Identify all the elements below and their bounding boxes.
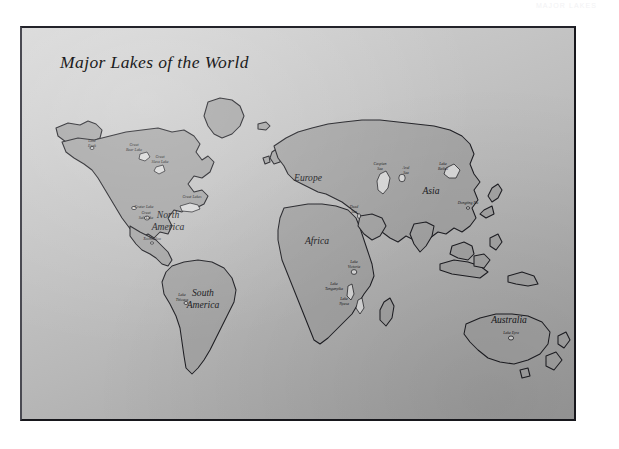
lake-shape-eyre — [508, 336, 513, 340]
lake-label-nyasa-line1: Lake — [339, 297, 348, 301]
landmass-borneo — [474, 254, 490, 268]
lake-label-caspian-line1: Caspian — [374, 162, 387, 166]
landmass-greenland — [204, 98, 244, 138]
lake-label-great-slave-line2: Slave Lake — [152, 160, 169, 164]
landmass-india — [410, 222, 434, 252]
landmass-tasmania — [520, 368, 530, 378]
continent-label-south-america-line1: South — [192, 287, 214, 298]
lake-label-titicaca-line1: Lake — [177, 293, 186, 297]
lake-label-nyasa-line2: Nyasa — [338, 302, 349, 306]
lake-shape-dongting — [466, 207, 469, 210]
landmass-south-america — [162, 260, 236, 374]
lake-label-xochimilco: Xochimilco — [142, 237, 161, 241]
continent-label-north-america-line1: North — [156, 209, 180, 220]
landmass-japan — [488, 184, 502, 202]
page-canvas: MAJOR LAKES Major Lakes of the World — [0, 0, 619, 449]
landmass-new-zealand-north — [558, 332, 570, 348]
lake-label-eyre: Lake Eyre — [502, 331, 519, 335]
landmass-ireland — [263, 156, 270, 164]
lake-label-dead-line2: Sea — [351, 210, 357, 214]
continent-label-europe: Europe — [293, 172, 323, 183]
lake-label-aral-line2: Sea — [403, 171, 409, 175]
continent-label-africa: Africa — [304, 235, 329, 246]
lake-shape-xochimilco — [150, 242, 153, 244]
lake-label-dead-line1: Dead — [349, 205, 358, 209]
landmass-southeast-asia — [450, 242, 474, 260]
continent-label-north-america-line2: America — [151, 221, 185, 232]
map-title: Major Lakes of the World — [60, 52, 249, 73]
lake-label-crater: Crater Lake — [135, 205, 154, 209]
lake-label-baikal-line2: Baikal — [438, 167, 448, 171]
lake-label-titicaca-line2: Titicaca — [176, 298, 189, 302]
lake-label-aral-line1: Aral — [402, 166, 410, 170]
lake-label-great-lakes: Great Lakes — [183, 195, 202, 199]
landmass-new-zealand-south — [546, 352, 562, 370]
lake-shape-aral — [399, 174, 405, 182]
landmass-iceland — [258, 122, 270, 130]
lake-label-caspian-line2: Sea — [377, 167, 383, 171]
lake-label-baikal-line1: Lake — [438, 162, 447, 166]
landmass-japan-south — [480, 206, 494, 218]
lake-label-great-slave-line1: Great — [156, 155, 166, 159]
lake-label-great-salt-line1: Great — [142, 211, 152, 215]
lake-label-great-bear-line1: Great — [130, 143, 140, 147]
continent-label-asia: Asia — [421, 185, 439, 196]
running-head: MAJOR LAKES — [536, 2, 597, 9]
lake-label-tanganyika-line1: Lake — [329, 282, 338, 286]
continent-label-south-america-line2: America — [186, 299, 220, 310]
lake-label-great-salt-line2: Salt Lake — [139, 216, 154, 220]
lake-label-eyak-line2: Eyak — [87, 144, 96, 148]
lake-shape-victoria — [351, 270, 357, 275]
landmass-new-guinea — [508, 272, 538, 286]
landmass-madagascar — [380, 298, 394, 326]
lake-shape-dead — [358, 214, 361, 219]
lake-label-eyak-line1: Lake — [87, 139, 96, 143]
lake-label-great-bear-line2: Bear Lake — [126, 148, 142, 152]
lake-label-tanganyika-line2: Tanganyika — [325, 287, 343, 291]
map-plate: Major Lakes of the World — [20, 26, 576, 421]
continent-label-australia: Australia — [490, 314, 527, 325]
lake-label-victoria-line1: Lake — [349, 260, 358, 264]
lake-label-victoria-line2: Victoria — [348, 265, 361, 269]
lake-label-dongting: Dongting Hu — [457, 201, 478, 205]
landmass-philippines — [490, 234, 502, 250]
world-map-svg: North America South America Europe Afric… — [22, 28, 576, 421]
